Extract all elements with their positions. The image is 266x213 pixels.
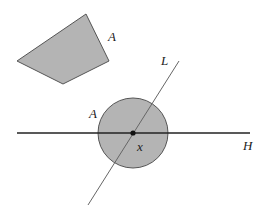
diagram-svg: A A H L x — [0, 0, 266, 213]
quadrilateral-set-a — [17, 14, 109, 84]
quadrilateral-label: A — [107, 29, 116, 44]
hyperplane-h-label: H — [242, 138, 253, 153]
disk-label: A — [88, 106, 97, 121]
point-x-label: x — [136, 139, 143, 154]
diagram-canvas: A A H L x — [0, 0, 266, 213]
point-x-dot — [130, 130, 135, 135]
line-l-label: L — [160, 53, 168, 68]
